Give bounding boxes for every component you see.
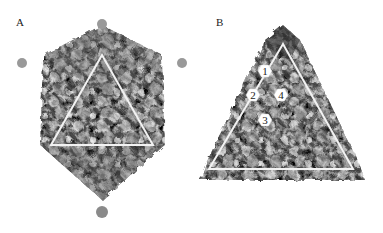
capsid-face-b [200,25,365,180]
figure-canvas: 1 2 4 3 [0,0,383,233]
capsid-a-vertex-knob [96,206,108,218]
svg-text:2: 2 [250,89,256,101]
capsid-a-vertex-knob [97,19,107,29]
svg-text:4: 4 [278,89,284,101]
svg-text:3: 3 [262,114,268,126]
capsid-a [40,25,165,200]
capsid-a-vertex-knob [17,58,27,68]
svg-text:1: 1 [262,65,268,77]
capsid-a-vertex-knob [177,58,187,68]
